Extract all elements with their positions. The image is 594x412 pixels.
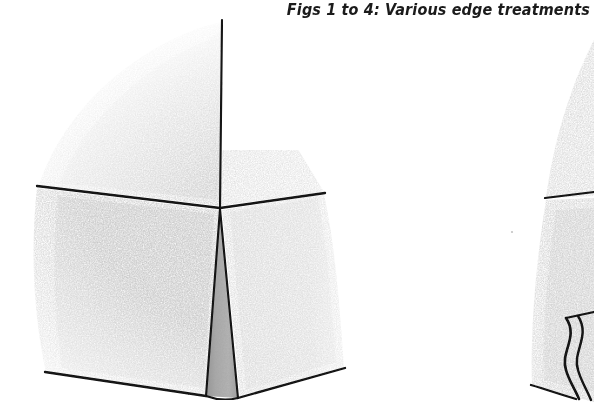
figure-2-shading xyxy=(532,40,594,402)
illustration-artboard xyxy=(0,0,594,412)
figure-1-right-face-shading xyxy=(222,194,344,397)
graphite-speck xyxy=(511,231,513,233)
figure-2-cube-corner-ogee xyxy=(531,40,594,402)
figure-1-cube-corner-chamfered xyxy=(34,20,345,400)
figure-1-top-right-face-shading xyxy=(220,24,324,206)
figure-1-left-face-shading xyxy=(34,188,220,395)
figure-1-top-face-shading xyxy=(39,22,222,206)
page-canvas: Figs 1 to 4: Various edge treatments xyxy=(0,0,594,412)
illustration-svg xyxy=(0,0,594,412)
